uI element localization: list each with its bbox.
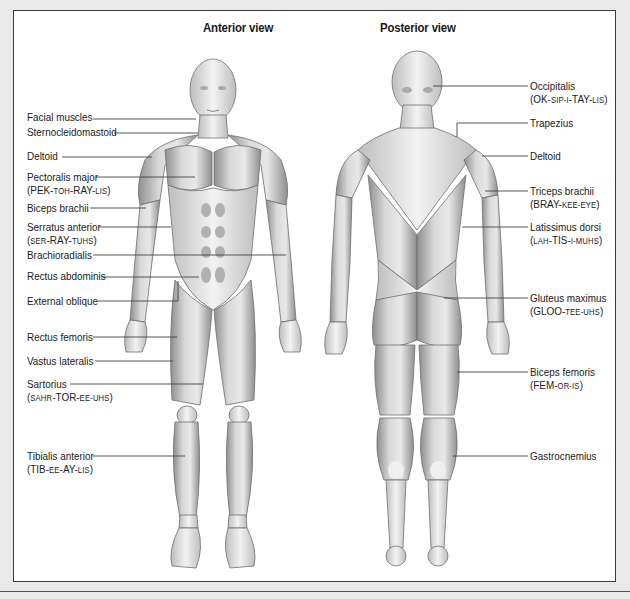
anterior-label-pectoralis-major: Pectoralis major(PEK-TOH-RAY-LIS) <box>27 171 111 198</box>
muscle-name: Rectus abdominis <box>27 270 106 282</box>
pronunciation: (TIB-EE-AY-LIS) <box>27 463 94 477</box>
muscle-name: Rectus femoris <box>27 331 93 343</box>
posterior-label-latissimus-dorsi: Latissimus dorsi(LAH-TIS-I-MUHS) <box>530 221 602 248</box>
muscle-name: Deltoid <box>27 150 58 162</box>
muscle-name: Deltoid <box>530 150 561 162</box>
muscle-name: Gastrocnemius <box>530 450 597 462</box>
anterior-label-tibialis-anterior: Tibialis anterior(TIB-EE-AY-LIS) <box>27 450 94 477</box>
anterior-label-rectus-abdominis: Rectus abdominis <box>27 270 106 283</box>
pronunciation: (BRAY-KEE-EYE) <box>530 198 600 212</box>
posterior-label-triceps-brachii: Triceps brachii(BRAY-KEE-EYE) <box>530 185 600 212</box>
posterior-leader-trapezius <box>457 123 528 137</box>
pronunciation: (OK-SIP-I-TAY-LIS) <box>530 93 608 107</box>
pronunciation: (SER-RAY-TUHS) <box>27 234 101 248</box>
posterior-label-gastrocnemius: Gastrocnemius <box>530 450 597 463</box>
anterior-label-biceps-brachii: Biceps brachii <box>27 202 89 215</box>
pronunciation: (GLOO-TEE-UHS) <box>530 305 606 319</box>
anterior-label-sartorius: Sartorius(SAHR-TOR-EE-UHS) <box>27 378 113 405</box>
muscle-name: External oblique <box>27 295 98 307</box>
anterior-label-brachioradialis: Brachioradialis <box>27 249 92 262</box>
anterior-label-rectus-femoris: Rectus femoris <box>27 331 93 344</box>
pronunciation: (LAH-TIS-I-MUHS) <box>530 234 602 248</box>
muscle-name: Biceps femoris <box>530 366 595 378</box>
posterior-label-occipitalis: Occipitalis(OK-SIP-I-TAY-LIS) <box>530 80 608 107</box>
muscle-name: Trapezius <box>530 117 573 129</box>
muscle-name: Gluteus maximus <box>530 292 606 304</box>
muscle-name: Serratus anterior <box>27 221 101 233</box>
muscle-name: Biceps brachii <box>27 202 89 214</box>
muscle-name: Facial muscles <box>27 111 92 123</box>
muscle-name: Tibialis anterior <box>27 450 94 462</box>
anterior-label-sternocleidomastoid: Sternocleidomastoid <box>27 126 117 139</box>
muscle-name: Brachioradialis <box>27 249 92 261</box>
muscle-name: Sartorius <box>27 378 67 390</box>
posterior-label-gluteus-maximus: Gluteus maximus(GLOO-TEE-UHS) <box>530 292 606 319</box>
posterior-figure <box>325 51 510 566</box>
anterior-label-external-oblique: External oblique <box>27 295 98 308</box>
anterior-label-serratus-anterior: Serratus anterior(SER-RAY-TUHS) <box>27 221 101 248</box>
muscle-name: Pectoralis major <box>27 171 98 183</box>
anterior-figure <box>125 59 302 568</box>
posterior-label-trapezius: Trapezius <box>530 117 573 130</box>
anterior-label-facial-muscles: Facial muscles <box>27 111 92 124</box>
muscle-name: Latissimus dorsi <box>530 221 601 233</box>
muscle-name: Occipitalis <box>530 80 575 92</box>
pronunciation: (PEK-TOH-RAY-LIS) <box>27 184 111 198</box>
pronunciation: (FEM-OR-IS) <box>530 379 595 393</box>
anterior-label-deltoid: Deltoid <box>27 150 58 163</box>
posterior-label-deltoid: Deltoid <box>530 150 561 163</box>
pronunciation: (SAHR-TOR-EE-UHS) <box>27 391 113 405</box>
muscle-name: Sternocleidomastoid <box>27 126 117 138</box>
anterior-label-vastus-lateralis: Vastus lateralis <box>27 355 93 368</box>
posterior-label-biceps-femoris: Biceps femoris(FEM-OR-IS) <box>530 366 595 393</box>
muscle-name: Vastus lateralis <box>27 355 93 367</box>
muscle-name: Triceps brachii <box>530 185 594 197</box>
